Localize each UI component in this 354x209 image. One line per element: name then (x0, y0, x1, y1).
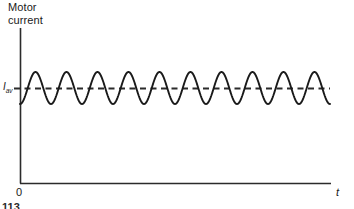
figure-background (0, 0, 354, 209)
plot-area (0, 0, 354, 209)
y-tick-subscript: av (6, 87, 12, 94)
origin-label: 0 (16, 186, 22, 198)
y-tick-label-iav: Iav (3, 81, 12, 94)
x-axis-label: t (336, 186, 339, 198)
page-number-fragment: 113 (2, 202, 20, 209)
y-axis-title: Motor current (8, 1, 43, 27)
motor-current-figure: Motor current Iav 0 t 113 (0, 0, 354, 209)
